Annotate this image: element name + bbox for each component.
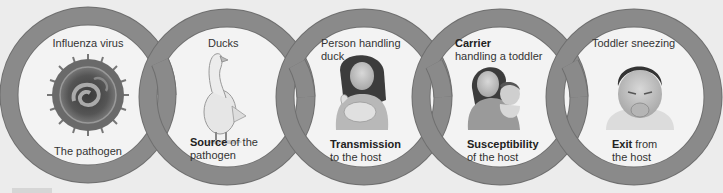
chain-of-infection-diagram <box>0 0 723 193</box>
exit-bottom-bold: Exit <box>612 138 632 150</box>
cropped-figure-caption <box>12 188 52 193</box>
source-top-label: Ducks <box>208 37 239 50</box>
transmission-bottom-text: to the host <box>330 151 381 163</box>
susceptibility-bottom-bold: Susceptibility <box>467 138 539 150</box>
carrier-top-text: handling a toddler <box>455 50 542 62</box>
exit-top-label: Toddler sneezing <box>592 37 702 50</box>
carrier-top-bold: Carrier <box>455 37 491 49</box>
source-bottom-bold: Source <box>190 136 227 148</box>
pathogen-bottom-label: The pathogen <box>38 145 138 158</box>
exit-bottom-label: Exit from the host <box>612 138 672 164</box>
source-bottom-label: Source of the pathogen <box>190 136 280 162</box>
influenza-virus-illustration <box>47 54 129 136</box>
pathogen-top-label: Influenza virus <box>38 37 138 50</box>
transmission-bottom-label: Transmission to the host <box>330 138 420 164</box>
transmission-top-label: Person handling duck <box>321 37 406 63</box>
carrier-top-label: Carrier handling a toddler <box>455 37 565 63</box>
person-holding-duck-illustration <box>336 55 388 130</box>
susceptibility-bottom-label: Susceptibility of the host <box>467 138 567 164</box>
susceptibility-bottom-text: of the host <box>467 151 518 163</box>
transmission-bottom-bold: Transmission <box>330 138 401 150</box>
